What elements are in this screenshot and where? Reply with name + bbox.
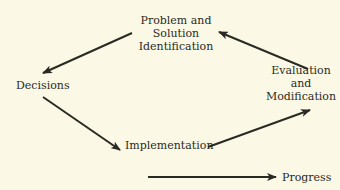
node-evaluation-modification: Evaluation and Modification xyxy=(263,64,339,103)
node-problem-solution-identification: Problem and Solution Identification xyxy=(128,14,224,53)
arrow-decisions-to-implementation xyxy=(43,97,120,150)
arrow-problem-to-decisions xyxy=(43,33,132,73)
node-implementation: Implementation xyxy=(125,139,214,152)
arrow-implementation-to-evaluation xyxy=(208,110,310,147)
node-decisions: Decisions xyxy=(16,79,70,92)
progress-label: Progress xyxy=(282,171,331,184)
